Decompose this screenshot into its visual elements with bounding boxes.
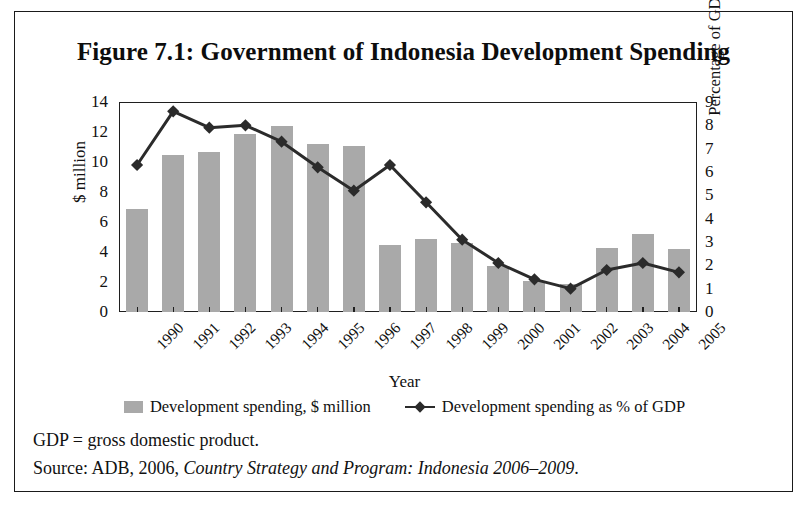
- x-tickmark-2002: [570, 307, 571, 312]
- x-tick-1995: 1995: [334, 319, 368, 353]
- y-left-tick-6: 6: [78, 213, 108, 230]
- line-marker-2005: [673, 266, 685, 278]
- x-tickmark-2005: [678, 307, 679, 312]
- y-left-tick-4: 4: [78, 243, 108, 260]
- legend-item-line: Development spending as % of GDP: [405, 397, 685, 417]
- line-series-svg: [119, 102, 697, 312]
- x-tickmark-1991: [173, 307, 174, 312]
- y-left-tick-14: 14: [78, 93, 108, 110]
- x-tick-1997: 1997: [406, 319, 440, 353]
- x-tick-2003: 2003: [623, 319, 657, 353]
- y-right-tick-7: 7: [705, 140, 729, 157]
- source-suffix: .: [574, 458, 579, 478]
- line-marker-2003: [601, 264, 613, 276]
- y-right-tick-6: 6: [705, 163, 729, 180]
- x-tickmark-1992: [209, 307, 210, 312]
- legend-line-marker-icon: [405, 401, 435, 413]
- x-tick-1993: 1993: [261, 319, 295, 353]
- x-tick-2002: 2002: [587, 319, 621, 353]
- chart-legend: Development spending, $ million Developm…: [15, 397, 794, 417]
- line-marker-1993: [239, 119, 251, 131]
- y-left-tick-8: 8: [78, 183, 108, 200]
- y-right-tick-2: 2: [705, 256, 729, 273]
- y-right-tick-9: 9: [705, 93, 729, 110]
- chart-plot-area: $ million Percentage of GDP 02468101214 …: [15, 12, 794, 493]
- x-tick-2001: 2001: [550, 319, 584, 353]
- line-marker-1992: [203, 122, 215, 134]
- x-tick-1992: 1992: [225, 319, 259, 353]
- x-tickmark-2000: [498, 307, 499, 312]
- y-right-tick-0: 0: [705, 303, 729, 320]
- x-tick-2004: 2004: [659, 319, 693, 353]
- x-tickmark-2001: [534, 307, 535, 312]
- x-tickmark-1995: [317, 307, 318, 312]
- x-tickmark-2004: [642, 307, 643, 312]
- x-tick-1991: 1991: [189, 319, 223, 353]
- y-left-tick-0: 0: [78, 303, 108, 320]
- figure-container: Figure 7.1: Government of Indonesia Deve…: [14, 11, 793, 492]
- line-marker-2004: [637, 257, 649, 269]
- x-tick-2005: 2005: [695, 319, 729, 353]
- source-prefix: Source: ADB, 2006,: [33, 458, 184, 478]
- y-right-tick-5: 5: [705, 186, 729, 203]
- y-left-tick-10: 10: [78, 153, 108, 170]
- y-right-tick-1: 1: [705, 280, 729, 297]
- x-axis-title: Year: [15, 372, 794, 392]
- legend-bar-label: Development spending, $ million: [150, 397, 371, 417]
- note-gdp-definition: GDP = gross domestic product.: [33, 427, 772, 455]
- legend-bar-swatch-icon: [124, 401, 143, 413]
- x-tickmark-1998: [426, 307, 427, 312]
- x-tickmark-1990: [137, 307, 138, 312]
- y-left-tick-12: 12: [78, 123, 108, 140]
- x-tickmark-1994: [281, 307, 282, 312]
- x-tickmark-1999: [462, 307, 463, 312]
- line-marker-2002: [564, 283, 576, 295]
- x-tickmark-2003: [606, 307, 607, 312]
- y-right-tick-3: 3: [705, 233, 729, 250]
- x-tick-1999: 1999: [478, 319, 512, 353]
- source-title: Country Strategy and Program: Indonesia …: [184, 458, 575, 478]
- x-tickmark-1997: [389, 307, 390, 312]
- x-tick-1990: 1990: [153, 319, 187, 353]
- line-series: [119, 102, 697, 312]
- legend-line-label: Development spending as % of GDP: [442, 397, 685, 417]
- y-right-tick-4: 4: [705, 210, 729, 227]
- x-tickmark-1996: [353, 307, 354, 312]
- line-path: [137, 111, 679, 288]
- x-tick-1994: 1994: [298, 319, 332, 353]
- y-right-tick-8: 8: [705, 116, 729, 133]
- x-tick-2000: 2000: [514, 319, 548, 353]
- x-tick-1998: 1998: [442, 319, 476, 353]
- legend-item-bar: Development spending, $ million: [124, 397, 371, 417]
- line-marker-2001: [528, 273, 540, 285]
- x-tickmark-1993: [245, 307, 246, 312]
- note-source: Source: ADB, 2006, Country Strategy and …: [33, 455, 772, 483]
- figure-notes: GDP = gross domestic product. Source: AD…: [33, 427, 772, 483]
- y-left-tick-2: 2: [78, 273, 108, 290]
- x-tick-1996: 1996: [370, 319, 404, 353]
